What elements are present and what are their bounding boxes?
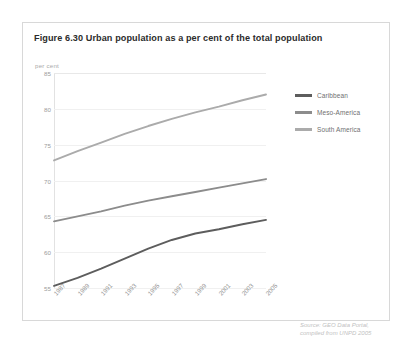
y-tick-60: 60	[44, 249, 51, 256]
legend-swatch-icon	[295, 111, 312, 114]
y-tick-70: 70	[44, 178, 51, 185]
legend-item-label: Meso-America	[317, 109, 360, 116]
line-south-america	[54, 95, 266, 161]
y-tick-65: 65	[44, 213, 51, 220]
series-lines	[54, 73, 266, 288]
legend-swatch-icon	[295, 128, 312, 131]
figure-card: Figure 6.30 Urban population as a per ce…	[22, 22, 390, 321]
source-note: Source: GEO Data Portal, compiled from U…	[300, 321, 395, 338]
figure-title: Figure 6.30 Urban population as a per ce…	[34, 32, 378, 44]
legend-item-meso-america[interactable]: Meso-America	[295, 106, 387, 119]
legend-item-label: Caribbean	[317, 92, 348, 99]
x-tick-2005: 2005	[264, 282, 279, 297]
y-tick-75: 75	[44, 142, 51, 149]
chart-legend: CaribbeanMeso-AmericaSouth America	[295, 89, 387, 140]
line-caribbean	[54, 220, 266, 286]
y-axis-unit-label: per cent	[35, 62, 59, 69]
source-line-2: compiled from UNPD 2005	[300, 329, 395, 337]
plot-wrap: 55606570758085 1987198919911993199519971…	[33, 71, 281, 311]
legend-swatch-icon	[295, 94, 312, 97]
legend-item-label: South America	[317, 126, 361, 133]
y-tick-80: 80	[44, 106, 51, 113]
line-meso-america	[54, 179, 266, 221]
y-tick-55: 55	[44, 285, 51, 292]
legend-item-caribbean[interactable]: Caribbean	[295, 89, 387, 102]
y-tick-85: 85	[44, 70, 51, 77]
source-line-1: Source: GEO Data Portal,	[300, 321, 395, 329]
legend-item-south-america[interactable]: South America	[295, 123, 387, 136]
